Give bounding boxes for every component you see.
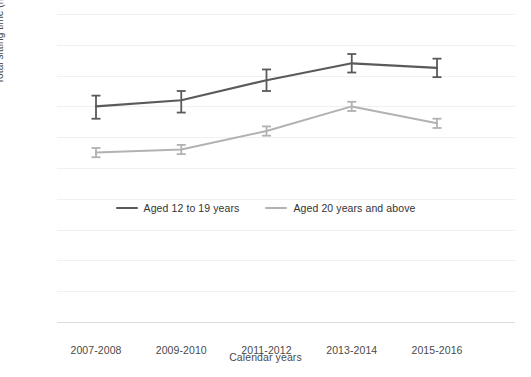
series-plot: [0, 0, 531, 377]
series-1: [92, 54, 442, 119]
x-axis-title: Calendar years: [0, 351, 531, 363]
chart-figure: Total sitting time (hours/day) 109876543…: [0, 0, 531, 377]
legend-label: Aged 12 to 19 years: [144, 202, 240, 214]
legend-swatch-icon: [116, 207, 138, 210]
legend-swatch-icon: [265, 207, 287, 210]
legend-entry-1[interactable]: Aged 12 to 19 years: [116, 202, 240, 214]
series-2: [92, 102, 442, 157]
legend-label: Aged 20 years and above: [293, 202, 415, 214]
error-bar-1-2: [177, 91, 186, 113]
legend-entry-2[interactable]: Aged 20 years and above: [265, 202, 415, 214]
